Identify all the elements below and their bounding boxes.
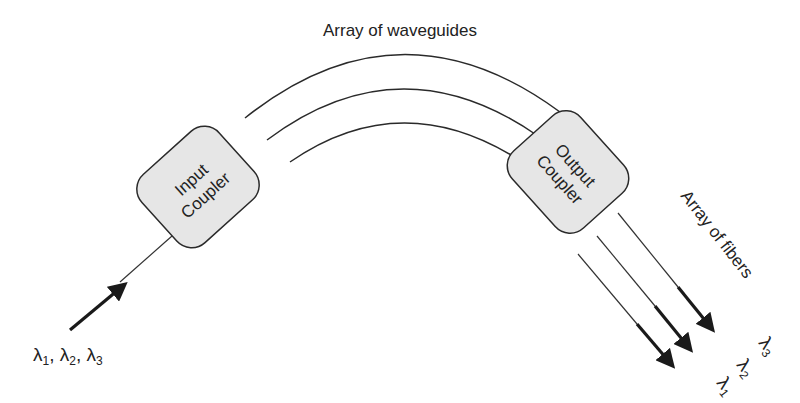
output-arrow-3-icon bbox=[678, 287, 712, 329]
input-arrow-icon bbox=[70, 285, 124, 330]
input-fiber bbox=[70, 236, 172, 330]
output-wavelength-3: λ3 bbox=[752, 333, 781, 361]
waveguide-inner bbox=[290, 123, 516, 162]
waveguide-middle bbox=[267, 89, 538, 140]
output-arrow-2-icon bbox=[655, 306, 690, 349]
waveguide-outer bbox=[245, 54, 560, 118]
input-coupler: Input Coupler bbox=[129, 118, 268, 256]
waveguides-label: Array of waveguides bbox=[323, 21, 477, 40]
output-fibers bbox=[578, 213, 712, 365]
awg-diagram: Array of waveguides Input Coupler Output… bbox=[0, 0, 800, 403]
input-wavelengths: λ1, λ2, λ3 bbox=[33, 344, 103, 368]
waveguide-array bbox=[245, 54, 560, 162]
fibers-label: Array of fibers bbox=[677, 187, 757, 282]
output-wavelength-1: λ1 bbox=[710, 373, 739, 401]
output-arrow-1-icon bbox=[637, 324, 672, 365]
